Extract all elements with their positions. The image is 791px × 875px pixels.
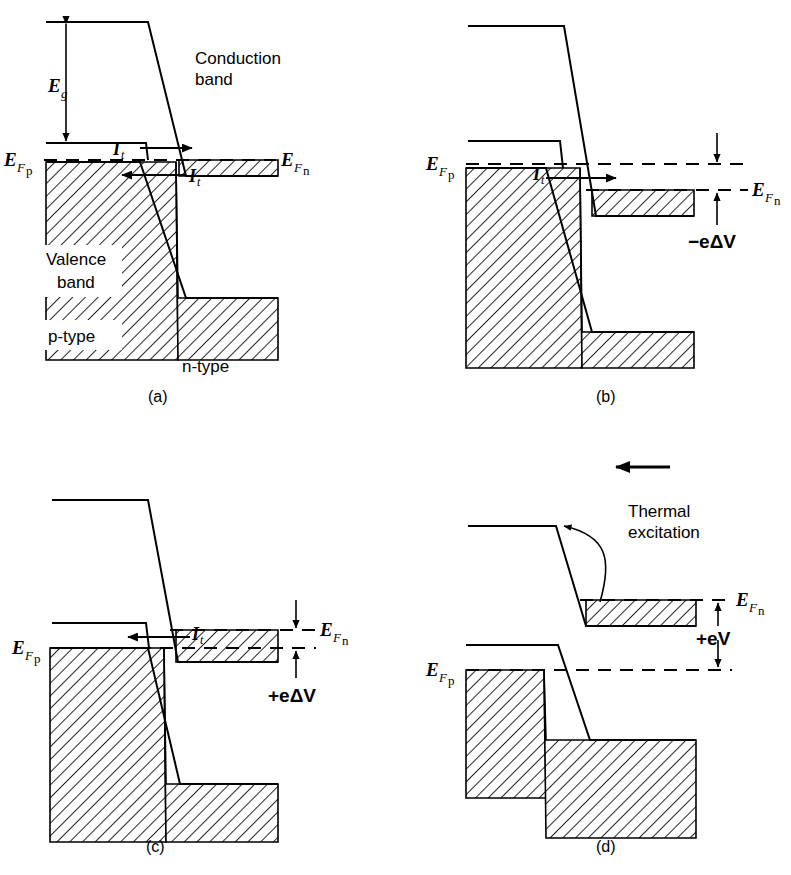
conduction-band-edge-a	[46, 22, 278, 176]
fermi-p-label-d: E	[425, 659, 439, 680]
panel-d: Thermal excitation +eV E F n E F p (d)	[400, 440, 791, 875]
tunnel-current-label-b: I	[532, 164, 541, 184]
valence-band-region-d-right	[544, 670, 696, 838]
fermi-n-label-c: E	[319, 619, 333, 640]
fermi-p-label-sub-f-b: F	[438, 164, 448, 179]
fermi-n-label-sub-type-a: n	[303, 163, 310, 178]
valence-band-region-b	[466, 168, 582, 368]
fermi-n-label-d: E	[735, 589, 749, 610]
valence-band-region-d	[466, 670, 546, 798]
valence-band-region-a-right	[176, 162, 278, 360]
valence-band-region-c	[50, 648, 166, 842]
conduction-band-fill-b	[592, 190, 694, 216]
fermi-p-label-sub-type-c: p	[34, 651, 41, 666]
fermi-p-label-sub-type-d: p	[448, 673, 455, 688]
panel-caption-a: (a)	[148, 388, 168, 405]
bias-label-c: +eΔV	[268, 685, 316, 706]
valence-band-label-line2: band	[57, 273, 95, 292]
conduction-band-fill-d	[586, 600, 696, 626]
fermi-n-label-sub-f-a: F	[293, 160, 303, 175]
fermi-n-label-sub-f-c: F	[332, 630, 342, 645]
fermi-p-label-a: E	[3, 149, 17, 170]
fermi-n-label-sub-f-d: F	[748, 600, 758, 615]
n-type-label: n-type	[182, 357, 229, 376]
fermi-n-label-sub-type-d: n	[758, 603, 765, 618]
valence-band-region-c-right	[164, 648, 278, 842]
panel-caption-b: (b)	[596, 388, 616, 405]
bias-label-b: −eΔV	[688, 231, 736, 252]
fermi-p-label-sub-f-a: F	[16, 160, 26, 175]
fermi-p-label-sub-f-c: F	[24, 648, 34, 663]
fermi-n-label-sub-type-b: n	[774, 193, 781, 208]
thermal-excitation-arrow-d	[564, 526, 606, 602]
tunnel-current-upper-label-sub: t	[121, 148, 125, 162]
valence-band-label-line1: Valence	[46, 250, 106, 269]
band-gap-label-sub: g	[61, 86, 68, 101]
conduction-band-p-edge-c	[52, 623, 149, 648]
thermal-excitation-label-line2: excitation	[628, 523, 700, 542]
fermi-n-label-a: E	[280, 149, 294, 170]
conduction-band-label-line2: band	[195, 70, 233, 89]
fermi-p-label-sub-type-a: p	[26, 163, 33, 178]
fermi-p-label-sub-f-d: F	[438, 670, 448, 685]
tunnel-current-lower-label-sub: t	[197, 175, 201, 189]
fermi-n-label-sub-f-b: F	[764, 190, 774, 205]
fermi-n-label-b: E	[751, 179, 765, 200]
conduction-band-p-edge-a	[46, 143, 148, 160]
panel-b: I t −eΔV E F p E F n (b)	[400, 0, 791, 440]
fermi-p-label-b: E	[425, 153, 439, 174]
fermi-n-label-sub-type-c: n	[342, 633, 349, 648]
tunnel-current-upper-label: I	[112, 139, 121, 159]
panel-c: I t +eΔV E F p E F n (c)	[0, 440, 400, 875]
fermi-p-label-sub-type-b: p	[448, 167, 455, 182]
panel-caption-d: (d)	[596, 838, 616, 855]
thermal-excitation-label-line1: Thermal	[628, 502, 690, 521]
p-type-label: p-type	[48, 327, 95, 346]
bias-label-d: +eV	[696, 628, 731, 649]
figure-root: E g I t I t E F p E F n Conduction band …	[0, 0, 791, 875]
tunnel-current-label-c: I	[191, 624, 200, 644]
fermi-p-label-c: E	[11, 637, 25, 658]
conduction-band-label-line1: Conduction	[195, 49, 281, 68]
panel-caption-c: (c)	[146, 838, 165, 855]
panel-a: E g I t I t E F p E F n Conduction band …	[0, 0, 400, 440]
band-gap-label: E	[47, 75, 61, 96]
tunnel-current-lower-label: I	[188, 166, 197, 186]
